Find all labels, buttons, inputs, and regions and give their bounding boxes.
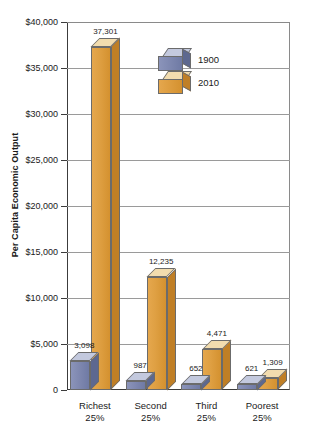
legend-label-2010: 2010 xyxy=(198,77,219,88)
y-tick-mark xyxy=(61,22,67,23)
y-tick-mark xyxy=(61,390,67,391)
category-name: Second xyxy=(135,400,167,411)
legend-swatch-1900-icon xyxy=(158,48,194,72)
y-tick-mark xyxy=(61,68,67,69)
bar-chart: Per Capita Economic Output 0$5,000$10,00… xyxy=(0,0,309,444)
y-tick-mark xyxy=(61,252,67,253)
gridline xyxy=(67,298,290,299)
y-tick-mark xyxy=(61,344,67,345)
y-axis-title: Per Capita Economic Output xyxy=(4,0,26,390)
legend: 1900 2010 xyxy=(158,48,228,98)
gridline xyxy=(67,160,290,161)
category-percent: 25% xyxy=(179,412,235,424)
gridline xyxy=(67,344,290,345)
gridline xyxy=(67,22,290,23)
x-axis-category-label: Second25% xyxy=(123,400,179,424)
category-percent: 25% xyxy=(123,412,179,424)
gridline xyxy=(67,114,290,115)
category-name: Poorest xyxy=(246,400,279,411)
category-percent: 25% xyxy=(67,412,123,424)
y-tick-mark xyxy=(61,160,67,161)
y-tick-label: 0 xyxy=(0,385,58,395)
y-tick-mark xyxy=(61,298,67,299)
category-name: Third xyxy=(196,400,218,411)
y-tick-label: $35,000 xyxy=(0,63,58,73)
y-tick-label: $5,000 xyxy=(0,339,58,349)
y-tick-label: $30,000 xyxy=(0,109,58,119)
x-axis-category-label: Third25% xyxy=(179,400,235,424)
gridline xyxy=(67,252,290,253)
y-tick-label: $40,000 xyxy=(0,17,58,27)
legend-label-1900: 1900 xyxy=(198,54,219,65)
y-tick-mark xyxy=(61,114,67,115)
y-axis-title-text: Per Capita Economic Output xyxy=(10,133,20,258)
x-axis-category-label: Richest25% xyxy=(67,400,123,424)
gridline xyxy=(67,206,290,207)
legend-swatch-2010-icon xyxy=(158,71,194,95)
y-tick-label: $20,000 xyxy=(0,201,58,211)
y-tick-label: $15,000 xyxy=(0,247,58,257)
y-tick-label: $10,000 xyxy=(0,293,58,303)
category-percent: 25% xyxy=(234,412,290,424)
x-axis-category-label: Poorest25% xyxy=(234,400,290,424)
category-name: Richest xyxy=(79,400,111,411)
y-tick-mark xyxy=(61,206,67,207)
y-tick-label: $25,000 xyxy=(0,155,58,165)
